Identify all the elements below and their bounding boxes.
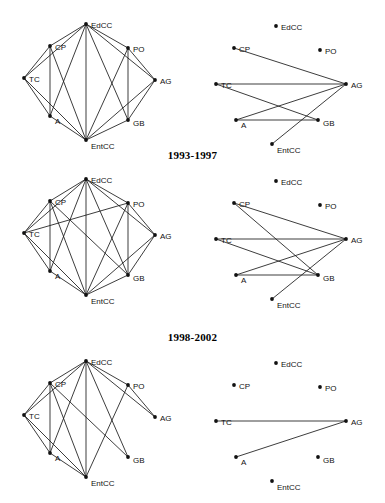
node-label-TC: TC	[29, 75, 40, 84]
node-label-TC: TC	[221, 81, 232, 90]
node-EdCC	[84, 359, 88, 363]
node-EntCC	[84, 138, 88, 142]
node-EntCC	[270, 142, 274, 146]
node-label-EdCC: EdCC	[281, 360, 303, 369]
panel-1993-1997-communication-network: EdCCCPPOTCAGAGBEntCC	[8, 163, 188, 313]
edge-AG-EntCC	[86, 235, 155, 295]
node-label-GB: GB	[323, 274, 335, 283]
node-label-CP: CP	[239, 200, 250, 209]
node-label-EdCC: EdCC	[91, 358, 113, 367]
edge-PO-EntCC	[86, 203, 128, 295]
node-GB	[316, 455, 320, 459]
edge-CP-GB	[50, 201, 128, 275]
panel-1988-1992-resource-exchange-network: EdCCCPPOTCAGAGBEntCC	[198, 8, 378, 158]
node-AG	[344, 419, 348, 423]
node-TC	[214, 419, 218, 423]
node-label-CP: CP	[55, 43, 66, 52]
node-label-TC: TC	[221, 418, 232, 427]
running-head: DYNAMICS OF POLICY NETWORKS 77	[0, 0, 385, 3]
node-EdCC	[274, 361, 278, 365]
node-TC	[22, 413, 26, 417]
edge-EdCC-GB	[86, 179, 128, 275]
node-PO	[318, 385, 322, 389]
edge-EdCC-AG	[86, 179, 155, 235]
node-label-GB: GB	[133, 456, 145, 465]
node-label-CP: CP	[239, 45, 250, 54]
node-label-AG: AG	[351, 81, 363, 90]
node-PO	[126, 201, 130, 205]
node-EdCC	[274, 24, 278, 28]
node-EdCC	[274, 179, 278, 183]
node-label-PO: PO	[133, 382, 145, 391]
edge-TC-PO	[24, 203, 128, 233]
edge-GB-EntCC	[86, 120, 128, 140]
node-PO	[318, 48, 322, 52]
node-label-AG: AG	[351, 418, 363, 427]
node-CP	[48, 199, 52, 203]
panel-1998-2002-resource-exchange-network: EdCCCPPOTCAGAGBEntCC	[198, 345, 378, 495]
edge-EdCC-A	[50, 361, 86, 453]
node-A	[48, 451, 52, 455]
panel-1993-1997: 1993-1997EdCCCPPOTCAGAGBEntCCEdCCCPPOTCA…	[0, 163, 385, 313]
edge-A-AG	[236, 84, 346, 120]
panel-1993-1997-resource-exchange-network: EdCCCPPOTCAGAGBEntCC	[198, 163, 378, 313]
node-A	[48, 114, 52, 118]
node-CP	[232, 201, 236, 205]
node-EntCC	[84, 475, 88, 479]
panel-1998-2002: 1998-2002EdCCCPPOTCAGAGBEntCCEdCCCPPOTCA…	[0, 345, 385, 495]
panel-period-title: 1998-2002	[0, 331, 385, 343]
edge-A-AG	[236, 421, 346, 457]
node-PO	[126, 46, 130, 50]
node-label-EntCC: EntCC	[91, 297, 115, 306]
node-label-TC: TC	[29, 230, 40, 239]
node-label-PO: PO	[325, 202, 337, 211]
node-label-EntCC: EntCC	[277, 483, 301, 492]
node-label-GB: GB	[133, 119, 145, 128]
node-label-A: A	[55, 272, 61, 281]
node-label-PO: PO	[133, 200, 145, 209]
node-label-EdCC: EdCC	[281, 23, 303, 32]
node-label-AG: AG	[351, 236, 363, 245]
edge-CP-TC	[24, 383, 50, 415]
edge-EdCC-AG	[86, 361, 155, 417]
node-A	[234, 455, 238, 459]
node-label-A: A	[241, 458, 247, 467]
node-label-A: A	[241, 276, 247, 285]
edge-TC-EntCC	[24, 233, 86, 295]
node-EdCC	[84, 22, 88, 26]
node-EntCC	[270, 297, 274, 301]
panel-1998-2002-communication-network: EdCCCPPOTCAGAGBEntCC	[8, 345, 188, 495]
edge-A-AG	[236, 239, 346, 275]
node-AG	[153, 78, 157, 82]
node-CP	[48, 381, 52, 385]
node-TC	[214, 237, 218, 241]
edge-EntCC-AG	[272, 84, 346, 144]
node-label-EdCC: EdCC	[91, 176, 113, 185]
node-PO	[126, 383, 130, 387]
edge-EdCC-GB	[86, 361, 128, 457]
node-A	[48, 269, 52, 273]
node-CP	[232, 46, 236, 50]
node-EntCC	[270, 479, 274, 483]
edge-GB-EntCC	[86, 275, 128, 295]
node-label-AG: AG	[160, 232, 172, 241]
edge-EdCC-GB	[86, 24, 128, 120]
node-label-EntCC: EntCC	[91, 479, 115, 488]
node-label-AG: AG	[160, 77, 172, 86]
node-EntCC	[84, 293, 88, 297]
node-label-PO: PO	[325, 384, 337, 393]
edge-TC-EntCC	[24, 78, 86, 140]
node-AG	[344, 82, 348, 86]
node-label-GB: GB	[133, 274, 145, 283]
node-label-AG: AG	[160, 414, 172, 423]
panel-1988-1992: EdCCCPPOTCAGAGBEntCCEdCCCPPOTCAGAGBEntCC	[0, 8, 385, 158]
node-label-CP: CP	[239, 382, 250, 391]
panel-period-title: 1993-1997	[0, 149, 385, 161]
edge-CP-GB	[50, 383, 128, 457]
panel-1988-1992-communication-network: EdCCCPPOTCAGAGBEntCC	[8, 8, 188, 158]
page-number: 77	[369, 0, 377, 1]
edge-PO-EntCC	[86, 48, 128, 140]
node-label-PO: PO	[133, 45, 145, 54]
node-GB	[316, 118, 320, 122]
edge-EdCC-AG	[86, 24, 155, 80]
